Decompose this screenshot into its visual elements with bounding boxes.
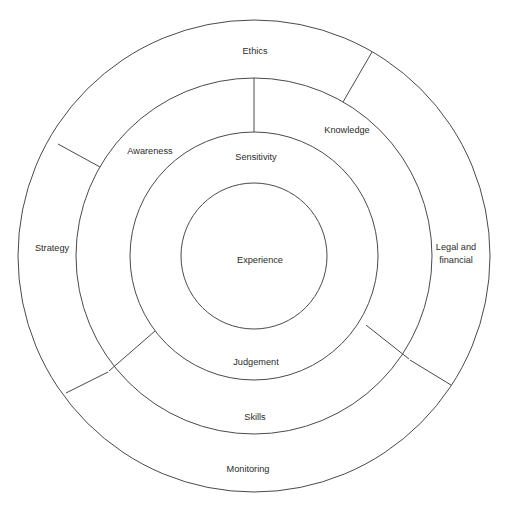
divider-outer-ethics-knowledge bbox=[343, 52, 372, 102]
segment-label-sensitivity: Sensitivity bbox=[235, 152, 277, 162]
segment-label-judgement: Judgement bbox=[233, 357, 279, 367]
segment-label-monitoring: Monitoring bbox=[227, 464, 270, 474]
concentric-ring-diagram: Ethics Knowledge Legal and financial Mon… bbox=[0, 0, 508, 522]
segment-label-legal-and-financial-line1: Legal and bbox=[436, 242, 476, 252]
divider-middle-awareness-skills bbox=[109, 331, 155, 371]
segment-label-skills: Skills bbox=[244, 412, 266, 422]
segment-label-ethics: Ethics bbox=[242, 46, 267, 56]
segment-label-awareness: Awareness bbox=[127, 146, 173, 156]
segment-label-strategy: Strategy bbox=[35, 243, 70, 253]
segment-label-legal-and-financial-line2: financial bbox=[439, 255, 473, 265]
segment-label-knowledge: Knowledge bbox=[324, 125, 369, 135]
ring-diagram-canvas: Ethics Knowledge Legal and financial Mon… bbox=[0, 0, 508, 522]
divider-outer-strategy-monitoring bbox=[66, 372, 108, 393]
segment-label-legal-and-financial: Legal and financial bbox=[436, 242, 476, 265]
divider-middle-sensitivity-judgement bbox=[366, 325, 409, 359]
divider-outer-monitoring-legal bbox=[410, 360, 451, 385]
segment-label-experience: Experience bbox=[237, 255, 283, 265]
divider-outer-strategy-ethics bbox=[58, 144, 100, 167]
